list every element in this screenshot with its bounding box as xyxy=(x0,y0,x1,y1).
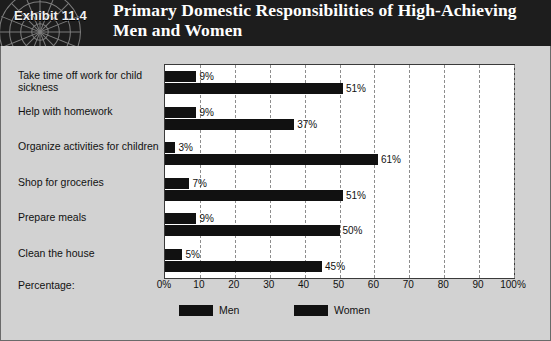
x-tick-label: 20 xyxy=(228,279,239,290)
gridline xyxy=(374,65,375,278)
bar-men xyxy=(165,249,182,260)
gridline xyxy=(270,65,271,278)
legend-swatch xyxy=(179,305,213,316)
x-tick-label: 30 xyxy=(263,279,274,290)
gridline xyxy=(514,65,515,278)
bar-group: 5%45% xyxy=(165,249,514,272)
gridline xyxy=(479,65,480,278)
gridline xyxy=(409,65,410,278)
x-tick-label: 60 xyxy=(368,279,379,290)
legend-label: Men xyxy=(219,304,239,316)
bar-women xyxy=(165,154,378,165)
bar-value-label: 9% xyxy=(199,107,213,118)
category-label: Shop for groceries xyxy=(18,176,160,188)
legend-item: Women xyxy=(294,304,370,316)
gridline xyxy=(200,65,201,278)
bar-women xyxy=(165,261,322,272)
bar-value-label: 9% xyxy=(199,213,213,224)
bar-men xyxy=(165,142,175,153)
gridline xyxy=(305,65,306,278)
x-tick-label: 10 xyxy=(193,279,204,290)
bar-women xyxy=(165,83,343,94)
category-label: Help with homework xyxy=(18,105,160,117)
bar-value-label: 61% xyxy=(381,154,401,165)
bar-men xyxy=(165,178,189,189)
bar-group: 9%37% xyxy=(165,107,514,130)
bar-men xyxy=(165,71,196,82)
exhibit-number: Exhibit 11.4 xyxy=(14,8,87,23)
bar-value-label: 51% xyxy=(346,190,366,201)
bar-group: 9%50% xyxy=(165,213,514,236)
bar-men xyxy=(165,107,196,118)
bar-value-label: 50% xyxy=(343,225,363,236)
exhibit-figure: Exhibit 11.4 Primary Domestic Responsibi… xyxy=(0,0,551,341)
legend-label: Women xyxy=(334,304,370,316)
category-axis-labels: Take time off work for child sicknessHel… xyxy=(18,64,160,277)
legend-swatch xyxy=(294,305,328,316)
bar-value-label: 3% xyxy=(178,142,192,153)
bar-value-label: 9% xyxy=(199,71,213,82)
category-label: Take time off work for child sickness xyxy=(18,69,160,93)
bar-chart: Take time off work for child sicknessHel… xyxy=(0,46,551,341)
bar-women xyxy=(165,225,340,236)
gridline xyxy=(235,65,236,278)
x-tick-label: 0% xyxy=(157,279,171,290)
bar-value-label: 51% xyxy=(346,83,366,94)
sunburst-icon xyxy=(0,0,86,46)
x-axis-ticks: 0%102030405060708090100% xyxy=(164,279,513,295)
x-tick-label: 100% xyxy=(500,279,526,290)
bar-value-label: 7% xyxy=(192,178,206,189)
bar-group: 3%61% xyxy=(165,142,514,165)
x-axis-title: Percentage: xyxy=(18,279,75,291)
x-tick-label: 70 xyxy=(403,279,414,290)
bar-women xyxy=(165,190,343,201)
category-label: Clean the house xyxy=(18,247,160,259)
x-tick-label: 40 xyxy=(298,279,309,290)
bar-men xyxy=(165,213,196,224)
x-tick-label: 50 xyxy=(333,279,344,290)
gridline xyxy=(340,65,341,278)
category-label: Prepare meals xyxy=(18,211,160,223)
legend-item: Men xyxy=(179,304,239,316)
chart-legend: MenWomen xyxy=(164,304,513,320)
exhibit-title: Primary Domestic Responsibilities of Hig… xyxy=(113,1,545,40)
category-label: Organize activities for children xyxy=(18,140,160,152)
bar-value-label: 45% xyxy=(325,261,345,272)
bar-value-label: 5% xyxy=(185,249,199,260)
x-tick-label: 90 xyxy=(473,279,484,290)
gridline xyxy=(444,65,445,278)
bar-group: 9%51% xyxy=(165,71,514,94)
bar-value-label: 37% xyxy=(297,119,317,130)
plot-area: 9%51%9%37%3%61%7%51%9%50%5%45% xyxy=(164,64,515,279)
bar-women xyxy=(165,119,294,130)
exhibit-header: Exhibit 11.4 Primary Domestic Responsibi… xyxy=(0,0,551,46)
x-tick-label: 80 xyxy=(438,279,449,290)
bar-group: 7%51% xyxy=(165,178,514,201)
